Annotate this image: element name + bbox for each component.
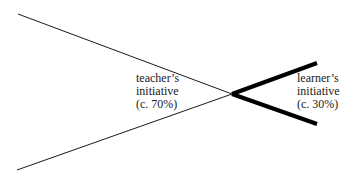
teacher-line-lower: [17, 94, 232, 170]
learner-initiative-label: learner’s initiative (c. 30%): [297, 72, 340, 111]
teacher-initiative-label: teacher’s initiative (c. 70%): [136, 72, 179, 111]
teacher-line-upper: [18, 14, 232, 94]
teacher-label-line-3: (c. 70%): [136, 98, 179, 111]
learner-label-line-3: (c. 30%): [297, 98, 340, 111]
